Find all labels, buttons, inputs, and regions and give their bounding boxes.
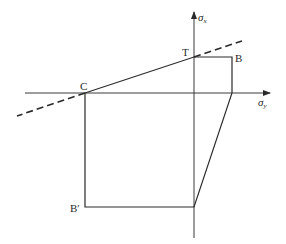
failure-envelope bbox=[85, 57, 232, 207]
point-label-t: T bbox=[182, 46, 189, 58]
sigma-x-axis-label: σx bbox=[198, 11, 207, 25]
point-label-b-prime: B′ bbox=[70, 202, 80, 214]
dashed-extension-left bbox=[17, 93, 85, 116]
sigma-y-axis-label: σy bbox=[258, 96, 267, 110]
point-label-c: C bbox=[80, 80, 87, 92]
failure-envelope-diagram: σx σy C T B B′ bbox=[0, 0, 286, 244]
point-label-b: B bbox=[235, 52, 242, 64]
